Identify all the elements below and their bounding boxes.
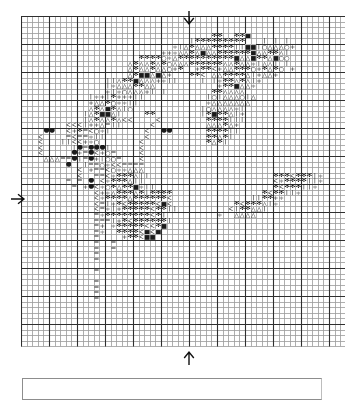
stitch-cell[interactable]: ÷ — [251, 83, 257, 89]
stitch-cell[interactable]: | — [161, 89, 167, 95]
stitch-cell[interactable]: ᐸ — [150, 122, 156, 128]
stitch-cell[interactable]: | — [223, 139, 229, 145]
stitch-cell[interactable]: ● — [49, 128, 55, 134]
stitch-cell[interactable]: ○ — [127, 106, 133, 112]
stitch-cell[interactable]: = — [94, 257, 100, 263]
stitch-cell[interactable]: + — [290, 44, 296, 50]
stitch-cell[interactable]: ● — [66, 162, 72, 168]
stitch-cell[interactable]: △ — [245, 100, 251, 106]
stitch-cell[interactable]: = — [111, 246, 117, 252]
stitch-cell[interactable]: | — [172, 206, 178, 212]
stitch-cell[interactable]: ÷ — [312, 184, 318, 190]
stitch-cell[interactable]: + — [256, 78, 262, 84]
stitch-cell[interactable]: | — [144, 173, 150, 179]
stitch-cell[interactable]: ■ — [155, 229, 161, 235]
stitch-cell[interactable]: ✻ — [178, 66, 184, 72]
stitch-cell[interactable]: = — [94, 268, 100, 274]
center-marker-top — [182, 10, 196, 26]
stitch-grid[interactable]: ✻✻✻✻■|✻✻✻✻✻✻✻✻✻|||÷|△✻△△△✻✻✻✻||■■|○△△△○+… — [21, 16, 345, 348]
stitch-cell[interactable]: ÷ — [273, 201, 279, 207]
stitch-cell[interactable]: | — [262, 206, 268, 212]
stitch-cell[interactable]: | — [150, 89, 156, 95]
stitch-cell[interactable]: | — [228, 134, 234, 140]
stitch-cell[interactable]: △ — [251, 94, 257, 100]
key-box-text — [25, 381, 319, 397]
stitch-cell[interactable]: ○ — [279, 66, 285, 72]
stitch-cell[interactable]: ᐸ — [144, 134, 150, 140]
stitch-cell[interactable]: | — [116, 122, 122, 128]
stitch-cell[interactable]: | — [167, 218, 173, 224]
stitch-cell[interactable]: | — [133, 100, 139, 106]
stitch-cell[interactable]: ÷ — [217, 212, 223, 218]
stitch-cell[interactable]: = — [71, 184, 77, 190]
stitch-cell[interactable]: | — [239, 117, 245, 123]
stitch-cell[interactable]: ● — [167, 128, 173, 134]
stitch-cell[interactable]: | — [234, 128, 240, 134]
center-marker-left — [10, 192, 26, 206]
stitch-cell[interactable]: ■ — [245, 33, 251, 39]
stitch-cell[interactable]: ÷ — [279, 195, 285, 201]
stitch-cell[interactable]: | — [99, 134, 105, 140]
stitch-cell[interactable]: ■ — [150, 234, 156, 240]
stitch-cell[interactable]: ᐸ — [155, 117, 161, 123]
stitch-cell[interactable]: + — [290, 66, 296, 72]
stitch-cell[interactable]: ᐸ — [127, 117, 133, 123]
stitch-cell[interactable]: | — [139, 94, 145, 100]
stitch-cell[interactable]: + — [273, 72, 279, 78]
stitch-cell[interactable]: ÷ — [99, 229, 105, 235]
stitch-cell[interactable]: = — [94, 296, 100, 302]
stitch-cell[interactable]: | — [172, 78, 178, 84]
stitch-cell[interactable]: | — [200, 78, 206, 84]
key-box[interactable] — [22, 378, 322, 400]
stitch-cell[interactable]: ■ — [161, 223, 167, 229]
symbol-layer: ✻✻✻✻■|✻✻✻✻✻✻✻✻✻|||÷|△✻△△△✻✻✻✻||■■|○△△△○+… — [21, 16, 345, 348]
stitch-cell[interactable]: | — [105, 128, 111, 134]
stitch-cell[interactable]: △ — [251, 212, 257, 218]
stitch-cell[interactable]: ÷ — [318, 178, 324, 184]
stitch-cell[interactable]: ÷ — [295, 190, 301, 196]
center-marker-bottom — [182, 350, 196, 366]
